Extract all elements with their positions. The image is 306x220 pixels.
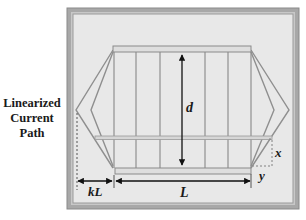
horizontal-crossbar	[95, 136, 272, 140]
current-path-diagram: d x y kL L	[0, 0, 306, 220]
y-label: y	[257, 168, 265, 183]
bottom-bar	[115, 168, 251, 174]
d-label: d	[186, 100, 194, 115]
l-label: L	[179, 185, 189, 200]
top-bar	[113, 46, 251, 52]
x-label: x	[274, 145, 282, 160]
kl-label: kL	[88, 184, 103, 199]
